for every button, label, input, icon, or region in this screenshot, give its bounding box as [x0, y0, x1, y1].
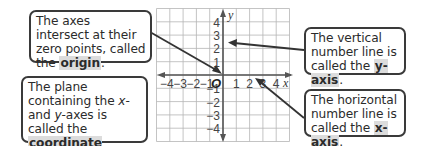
callout-yaxis-period: . — [339, 73, 343, 87]
callout-y-axis: The vertical number line is called the y… — [304, 27, 406, 75]
y-tick-label: 4 — [213, 16, 220, 30]
callout-origin-period: . — [101, 56, 105, 70]
y-tick-label: −2 — [206, 96, 220, 110]
callout-plane-var-y: y — [54, 108, 61, 122]
y-tick-label: −3 — [206, 109, 220, 123]
term-coordinate-plane: coordinate plane — [28, 136, 102, 146]
yaxis-pointer-line — [234, 43, 304, 50]
x-tick-label: −2 — [187, 77, 201, 91]
callout-coordinate-plane: The plane containing the x- and y-axes i… — [21, 76, 148, 143]
xaxis-pointer-line — [259, 81, 304, 118]
y-axis-label: y — [227, 8, 234, 22]
origin-label: O — [211, 76, 221, 91]
x-tick-label: −3 — [173, 77, 187, 91]
y-axis-down-arrow-icon — [220, 134, 226, 142]
callout-origin: The axes intersect at their zero points,… — [29, 10, 152, 63]
callout-x-axis: The horizontal number line is called the… — [304, 89, 406, 137]
x-tick-label: −4 — [160, 77, 174, 91]
x-tick-label: 1 — [233, 77, 240, 91]
origin-pointer-line — [150, 32, 218, 71]
axes — [157, 9, 293, 142]
term-origin: origin — [59, 56, 101, 70]
callout-plane-text-1: The plane containing the — [28, 80, 118, 108]
y-tick-label: −4 — [206, 122, 220, 136]
x-axis-label: x — [282, 76, 289, 90]
y-axis-up-arrow-icon — [220, 9, 226, 17]
callout-xaxis-period: . — [339, 135, 343, 146]
y-tick-label: 2 — [213, 42, 220, 56]
x-tick-label: 4 — [273, 77, 280, 91]
x-tick-label: 2 — [246, 77, 253, 91]
y-tick-label: 3 — [213, 29, 220, 43]
yaxis-pointer-arrow-icon — [228, 39, 237, 47]
